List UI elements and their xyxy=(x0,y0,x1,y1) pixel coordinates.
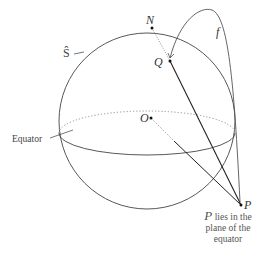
note-line-2: plane of the xyxy=(193,223,263,234)
equator-label: Equator xyxy=(12,134,43,144)
origin-to-equator-dotted xyxy=(151,118,174,141)
note-line-3: equator xyxy=(193,234,263,245)
equator-front xyxy=(59,133,235,155)
p-point xyxy=(240,204,243,207)
note-line-1: P lies in the xyxy=(193,210,263,223)
map-f-label: f xyxy=(216,25,221,39)
origin-label: O xyxy=(140,111,149,125)
sphere-label: Ŝ xyxy=(63,46,70,60)
sphere-label-leader xyxy=(74,52,84,54)
note-text-1: lies in the xyxy=(215,212,252,222)
equator-label-leader xyxy=(50,130,73,138)
q-to-p-line xyxy=(170,61,241,205)
p-plane-note: P lies in the plane of the equator xyxy=(193,210,263,245)
origin-point xyxy=(150,117,153,120)
q-point xyxy=(169,60,172,63)
map-f-curve xyxy=(170,9,240,202)
note-p-symbol: P xyxy=(204,208,212,223)
equator-to-p-line xyxy=(174,141,241,205)
q-label: Q xyxy=(154,55,163,69)
north-pole-label: N xyxy=(145,13,155,27)
